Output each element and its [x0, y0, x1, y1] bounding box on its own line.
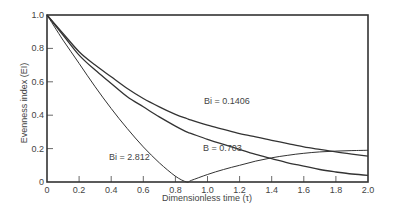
curve-label-bi-0.1406: Bi = 0.1406	[204, 96, 250, 106]
x-tick-label: 0.2	[73, 185, 86, 195]
y-tick-label: 0.2	[31, 144, 44, 154]
axis-ticks: 00.20.40.60.81.01.21.41.61.82.000.20.40.…	[31, 10, 374, 195]
y-tick-label: 1.0	[31, 10, 44, 20]
x-tick-label: 1.6	[298, 185, 311, 195]
x-tick-label: 1.4	[265, 185, 278, 195]
curve-label-bi-0.703: B = 0.703	[203, 143, 242, 153]
curve-label-bi-2.812: Bi = 2.812	[109, 152, 150, 162]
x-tick-label: 0.6	[137, 185, 150, 195]
y-axis-title: Evenness index (EI)	[19, 63, 29, 144]
y-tick-label: 0.6	[31, 77, 44, 87]
x-tick-label: 0.4	[105, 185, 118, 195]
x-tick-label: 0	[44, 185, 49, 195]
y-tick-label: 0.4	[31, 110, 44, 120]
x-axis-title: Dimensionless time (τ)	[162, 193, 252, 203]
y-tick-label: 0.8	[31, 43, 44, 53]
line-chart: 00.20.40.60.81.01.21.41.61.82.000.20.40.…	[0, 0, 394, 214]
x-tick-label: 1.8	[330, 185, 343, 195]
y-tick-label: 0	[39, 177, 44, 187]
chart-container: 00.20.40.60.81.01.21.41.61.82.000.20.40.…	[0, 0, 394, 214]
x-tick-label: 2.0	[362, 185, 375, 195]
curve-bi-0.1406	[47, 15, 368, 156]
